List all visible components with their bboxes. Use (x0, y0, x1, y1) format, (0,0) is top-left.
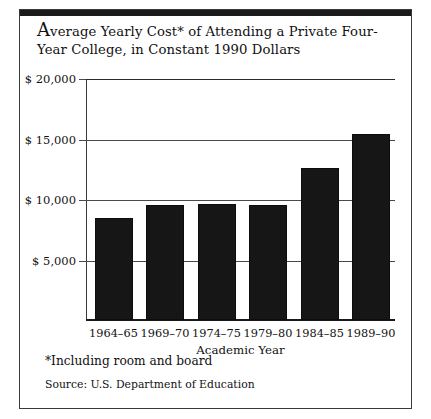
y-tick-label-20000: $ 20,000 (25, 72, 76, 86)
y-tick-label-10000: $ 10,000 (25, 193, 76, 207)
x-tick-label-1964-65: 1964–65 (89, 327, 138, 340)
plot-area: $ 20,000 $ 15,000 $ 10,000 $ 5,000 1964–… (20, 10, 413, 410)
x-tick-label-1974-75: 1974–75 (192, 327, 241, 340)
tick-10000 (79, 200, 86, 201)
x-tick-label-1979-80: 1979–80 (244, 327, 293, 340)
footnote-text: *Including room and board (45, 354, 212, 368)
tick-15000 (79, 140, 86, 141)
y-tick-label-15000: $ 15,000 (25, 133, 76, 147)
source-text: Source: U.S. Department of Education (45, 378, 255, 391)
gridline-20000 (86, 79, 395, 80)
x-tick-label-1969-70: 1969–70 (141, 327, 190, 340)
gridline-15000 (86, 140, 395, 141)
bar-1989-90 (352, 134, 390, 320)
bar-1969-70 (146, 205, 184, 320)
y-tick-label-5000: $ 5,000 (32, 254, 76, 268)
chart-axes: $ 20,000 $ 15,000 $ 10,000 $ 5,000 1964–… (86, 79, 395, 321)
x-tick-label-1984-85: 1984–85 (295, 327, 344, 340)
chart-figure: Average Yearly Cost* of Attending a Priv… (19, 9, 412, 409)
tick-20000 (79, 79, 86, 80)
bar-1974-75 (198, 204, 236, 320)
bar-1984-85 (301, 168, 339, 321)
x-tick-label-1989-90: 1989–90 (347, 327, 396, 340)
tick-5000 (79, 261, 86, 262)
bar-1979-80 (249, 205, 287, 320)
bar-1964-65 (95, 218, 133, 320)
gridline-10000 (86, 200, 395, 201)
